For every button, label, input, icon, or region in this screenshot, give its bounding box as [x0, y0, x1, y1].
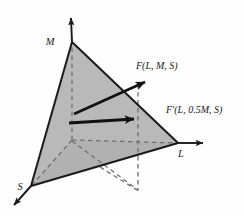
- vector-f-prime-label: F'(L, 0.5M, S): [165, 104, 223, 116]
- lms-simplex-diagram: M L S F(L, M, S) F'(L, 0.5M, S): [0, 0, 244, 216]
- vector-f-label: F(L, M, S): [135, 60, 178, 72]
- vertex-label-s: S: [17, 181, 23, 192]
- axis-m-line: [71, 18, 72, 42]
- dashed-base-to-projection: [100, 167, 137, 190]
- figure-container: M L S F(L, M, S) F'(L, 0.5M, S): [0, 0, 244, 216]
- vertex-label-l: L: [177, 148, 184, 159]
- vertex-label-m: M: [45, 36, 56, 47]
